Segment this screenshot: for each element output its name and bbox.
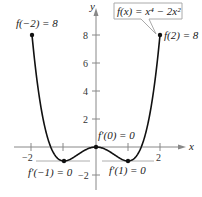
point-max-0 [94,145,98,149]
x-axis-label: x [188,140,194,152]
y-tick-label-2: 2 [83,114,88,125]
label-fp-0: f′(0) = 0 [98,129,135,142]
point-min-neg1 [62,159,66,163]
y-tick-label-neg2: −2 [78,170,89,181]
label-f-neg2: f(−2) = 8 [16,17,58,30]
point-min-1 [126,159,130,163]
label-fp-neg1: f′(−1) = 0 [28,166,73,179]
label-fp-1: f′(1) = 0 [109,164,146,177]
y-tick-label-8: 8 [83,30,88,41]
x-tick-label-2: 2 [156,152,161,163]
y-tick-label-4: 4 [83,86,88,97]
y-axis-label: y [89,0,95,12]
function-label: f(x) = x⁴ − 2x² [117,5,181,18]
function-graph: x y −2 2 8 6 4 2 −2 f(x) = x⁴ − 2x² f(−2… [0,0,202,197]
y-tick-label-6: 6 [83,58,88,69]
label-f-2: f(2) = 8 [164,29,199,42]
x-axis-arrow-icon [178,145,186,150]
x-tick-label-neg2: −2 [22,152,33,163]
point-f-neg2 [30,33,34,37]
point-f-2 [158,33,162,37]
